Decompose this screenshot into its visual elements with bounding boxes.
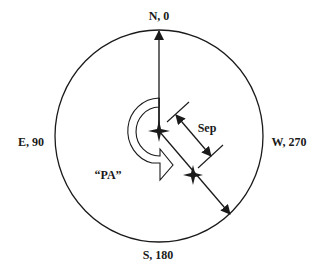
diagram-canvas: N, 0 E, 90 W, 270 S, 180 “PA” Sep bbox=[0, 0, 319, 275]
sep-label: Sep bbox=[198, 121, 217, 135]
north-label: N, 0 bbox=[149, 9, 170, 23]
sep-extension-line-start bbox=[167, 102, 189, 122]
pa-label: “PA” bbox=[94, 168, 121, 182]
secondary-star-icon bbox=[183, 165, 203, 185]
south-label: S, 180 bbox=[143, 248, 174, 262]
sep-extension-line-end bbox=[198, 145, 223, 168]
primary-star-icon bbox=[148, 120, 170, 142]
west-label: W, 270 bbox=[272, 135, 307, 149]
east-label: E, 90 bbox=[18, 135, 44, 149]
pa-sep-diagram: N, 0 E, 90 W, 270 S, 180 “PA” Sep bbox=[0, 0, 319, 275]
